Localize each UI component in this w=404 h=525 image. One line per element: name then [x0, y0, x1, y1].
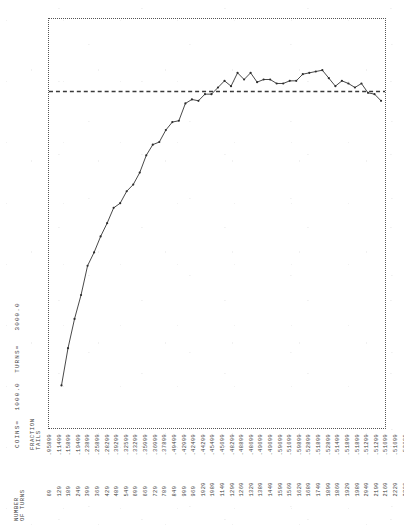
x-tick-label-text: 1140 [221, 487, 226, 497]
x-tick-label-text: 1260 [240, 487, 245, 497]
y-tick-label-text: .51600 [384, 446, 389, 456]
data-point-markers [60, 69, 382, 386]
y-tick-label-text: .51200 [375, 446, 380, 456]
x-tick-label-text: 720 [154, 487, 159, 497]
data-point [373, 93, 375, 95]
x-tick-label-text: 660 [144, 487, 149, 497]
x-tick-label-text: 2160 [384, 487, 389, 497]
data-point [191, 98, 193, 100]
y-tick-label-text: .11400 [58, 446, 63, 456]
y-tick-label-text: .50600 [279, 446, 284, 456]
y-tick-label-text: .48200 [231, 446, 236, 456]
data-point [132, 183, 134, 185]
data-point [210, 93, 212, 95]
x-tick-label-text: 1980 [356, 487, 361, 497]
data-point [93, 251, 95, 253]
data-point [269, 78, 271, 80]
data-point [152, 144, 154, 146]
y-tick-label-text: .42400 [192, 446, 197, 456]
x-tick-label-text: 1680 [307, 487, 312, 497]
data-point [171, 121, 173, 123]
y-tick-label-text: .51800 [346, 446, 351, 456]
x-tick-label-text: 1500 [279, 487, 284, 497]
y-tick-label-text: .23800 [86, 446, 91, 456]
data-point [250, 72, 252, 74]
x-tick-label-text: 2220 [394, 487, 399, 497]
y-tick-label-text: .15800 [67, 446, 72, 456]
data-curve [61, 70, 381, 385]
data-point [197, 100, 199, 102]
y-axis-caption-line2: TAILS [35, 430, 42, 450]
data-point [106, 222, 108, 224]
plot-canvas [49, 19, 385, 428]
data-point [204, 93, 206, 95]
x-tick-label-text: 360 [96, 487, 101, 497]
data-point [165, 129, 167, 131]
y-tick-label-text: .52800 [327, 446, 332, 456]
data-point [217, 86, 219, 88]
x-tick-label-text: 840 [173, 487, 178, 497]
data-point [139, 172, 141, 174]
data-point [86, 265, 88, 267]
data-point [347, 82, 349, 84]
x-tick-label-text: 1380 [259, 487, 264, 497]
x-tick-label-text: 1920 [346, 487, 351, 497]
y-tick-label-text: .35000 [144, 446, 149, 456]
x-tick-label-text: 2040 [365, 487, 370, 497]
x-axis-caption: NUMBER OF TURNS [14, 489, 27, 521]
x-tick-label-text: 60 [48, 487, 53, 497]
x-tick-label-text: 1020 [202, 487, 207, 497]
data-point [184, 102, 186, 104]
x-tick-label-text: 1320 [250, 487, 255, 497]
data-point [308, 72, 310, 74]
data-point [236, 72, 238, 74]
y-tick-label-text: .05800 [48, 446, 53, 456]
y-tick-label-text: .42000 [183, 446, 188, 456]
y-tick-label-text: .45400 [211, 446, 216, 456]
y-tick-label-text: .50800 [298, 446, 303, 456]
data-point [354, 86, 356, 88]
x-tick-label-text: 120 [58, 487, 63, 497]
x-axis-caption-line2: OF TURNS [19, 489, 26, 521]
x-tick-label-text: 420 [106, 487, 111, 497]
x-tick-label-text: 1800 [327, 487, 332, 497]
x-tick-label-text: 780 [163, 487, 168, 497]
y-tick-label-text: .49600 [259, 446, 264, 456]
y-tick-label-text: .33200 [134, 446, 139, 456]
y-tick-label-row: .05800.11400.15800.19400.23800.25800.282… [48, 446, 404, 480]
y-tick-label-text: .44200 [202, 446, 207, 456]
y-tick-label-text: .25800 [96, 446, 101, 456]
x-tick-label-text: 1740 [317, 487, 322, 497]
data-point [367, 92, 369, 94]
data-point [380, 100, 382, 102]
data-point [100, 235, 102, 237]
y-tick-label-text: .28200 [106, 446, 111, 456]
data-point [60, 384, 62, 386]
data-point [145, 154, 147, 156]
x-tick-label-row: 6012018024030036042048054060066072078084… [48, 487, 404, 517]
x-tick-label-text: 180 [67, 487, 72, 497]
y-tick-label-text: .52800 [307, 446, 312, 456]
y-tick-label-text: .51600 [288, 446, 293, 456]
data-point [276, 82, 278, 84]
data-point [256, 81, 258, 83]
y-tick-label-text: .37800 [163, 446, 168, 456]
x-tick-label-text: 1440 [269, 487, 274, 497]
y-axis-caption: FRACTION TAILS [30, 418, 43, 450]
y-tick-label-text: .51200 [365, 446, 370, 456]
data-point [243, 78, 245, 80]
x-tick-label-text: 1560 [288, 487, 293, 497]
data-point [80, 294, 82, 296]
plot-header: COINS= 1000.0 TURNS= 3000.0 [14, 302, 21, 448]
data-point [282, 82, 284, 84]
y-tick-label-text: .51400 [336, 446, 341, 456]
y-tick-label-text: .19400 [77, 446, 82, 456]
x-tick-label-text: 540 [125, 487, 130, 497]
data-point [328, 77, 330, 79]
printout-page: COINS= 1000.0 TURNS= 3000.0 FRACTION TAI… [0, 0, 404, 525]
data-point [302, 73, 304, 75]
data-point [334, 85, 336, 87]
y-tick-label-text: .51800 [317, 446, 322, 456]
x-tick-label-text: 1620 [298, 487, 303, 497]
y-tick-label-text: .45600 [221, 446, 226, 456]
